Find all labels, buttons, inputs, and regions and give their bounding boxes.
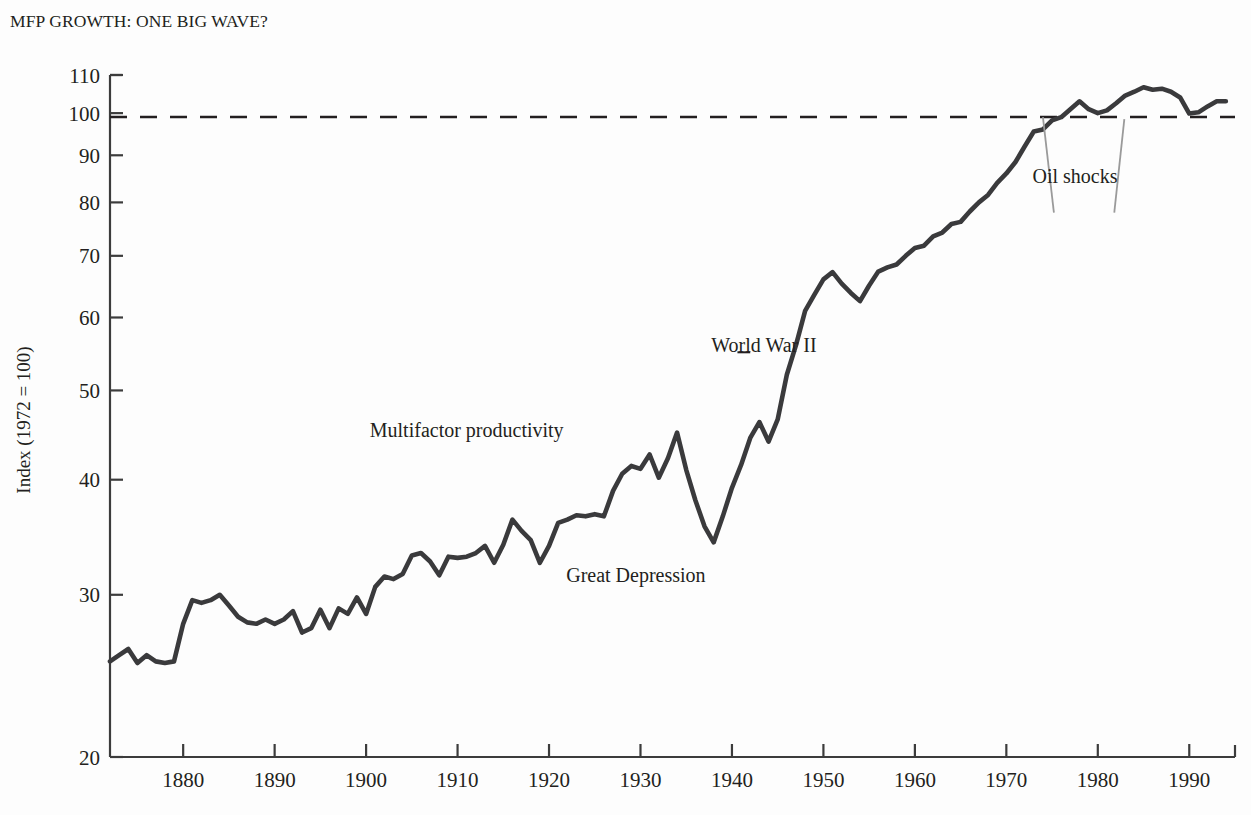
x-tick-label-1920: 1920 — [528, 768, 570, 792]
y-tick-label-20: 20 — [79, 746, 100, 770]
y-axis-ticks: 2030405060708090100110 — [69, 64, 124, 770]
annotation-series-label: Multifactor productivity — [370, 419, 564, 442]
y-axis-title: Index (1972 = 100) — [13, 346, 35, 493]
annotation-world-war-2: World War II — [711, 334, 816, 356]
x-tick-label-1880: 1880 — [162, 768, 204, 792]
x-tick-label-1980: 1980 — [1077, 768, 1119, 792]
x-tick-label-1970: 1970 — [985, 768, 1027, 792]
mfp-line-chart: 2030405060708090100110 18801890190019101… — [0, 0, 1251, 815]
y-tick-label-40: 40 — [79, 468, 100, 492]
x-tick-label-1940: 1940 — [711, 768, 753, 792]
y-tick-label-90: 90 — [79, 144, 100, 168]
x-axis-ticks: 1880189019001910192019301940195019601970… — [162, 744, 1210, 792]
annotation-oil-shocks: Oil shocks — [1032, 165, 1117, 187]
x-tick-label-1950: 1950 — [802, 768, 844, 792]
x-tick-label-1990: 1990 — [1168, 768, 1210, 792]
y-tick-label-30: 30 — [79, 583, 100, 607]
x-tick-label-1960: 1960 — [894, 768, 936, 792]
y-tick-label-50: 50 — [79, 379, 100, 403]
y-tick-label-70: 70 — [79, 244, 100, 268]
annotations: Multifactor productivityGreat Depression… — [370, 165, 1118, 587]
y-tick-label-80: 80 — [79, 191, 100, 215]
x-tick-label-1890: 1890 — [254, 768, 296, 792]
y-tick-label-60: 60 — [79, 306, 100, 330]
x-tick-label-1930: 1930 — [619, 768, 661, 792]
y-tick-label-100: 100 — [69, 102, 101, 126]
y-tick-label-110: 110 — [69, 64, 100, 88]
chart-page: MFP GROWTH: ONE BIG WAVE? 20304050607080… — [0, 0, 1251, 815]
annotation-great-depression: Great Depression — [566, 564, 705, 587]
x-tick-label-1910: 1910 — [437, 768, 479, 792]
x-tick-label-1900: 1900 — [345, 768, 387, 792]
annotation-leader-lines — [737, 117, 1124, 352]
